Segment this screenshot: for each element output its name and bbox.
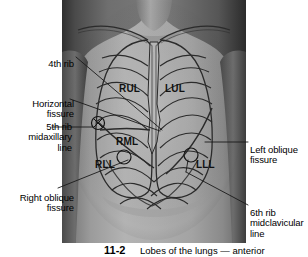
lobe-label-rll: RLL <box>95 159 115 170</box>
thorax-photograph-image <box>62 0 246 243</box>
annotation-sixth-rib-midclavicular-text: 6th rib midclavicular line <box>250 207 304 239</box>
figure-caption-text: Lobes of the lungs — anterior <box>140 245 265 256</box>
figure-caption: 11-2 Lobes of the lungs — anterior <box>62 244 308 257</box>
lobe-label-rml-text: RML <box>116 136 138 147</box>
lobe-label-lul-text: LUL <box>165 83 185 94</box>
annotation-fourth-rib: 4th rib <box>2 48 74 69</box>
annotation-sixth-rib-midclavicular: 6th rib midclavicular line <box>250 197 308 239</box>
lobe-label-rul-text: RUL <box>119 83 140 94</box>
figure-lobes-of-the-lungs-anterior: 4th rib Horizontal fissure 5th rib midax… <box>0 0 308 257</box>
lobe-label-rll-text: RLL <box>95 159 115 170</box>
figure-caption-number: 11-2 <box>104 244 125 256</box>
lobe-label-rul: RUL <box>119 83 140 94</box>
lobe-label-lll-text: LLL <box>196 159 215 170</box>
annotation-fifth-rib-midaxillary: 5th rib midaxillary line <box>0 111 72 153</box>
lobe-label-rml: RML <box>116 136 138 147</box>
lobe-label-lul: LUL <box>165 83 185 94</box>
annotation-fifth-rib-midaxillary-text: 5th rib midaxillary line <box>28 121 72 153</box>
lobe-label-lll: LLL <box>196 159 215 170</box>
annotation-fourth-rib-text: 4th rib <box>48 58 74 69</box>
annotation-right-oblique-fissure-text: Right oblique fissure <box>20 192 74 214</box>
annotation-right-oblique-fissure: Right oblique fissure <box>0 182 74 214</box>
annotation-left-oblique-fissure-text: Left oblique fissure <box>250 144 298 166</box>
annotation-left-oblique-fissure: Left oblique fissure <box>250 134 308 166</box>
thorax-photograph <box>62 0 246 243</box>
